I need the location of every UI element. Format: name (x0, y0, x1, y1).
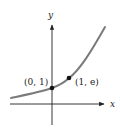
point-0-1-label: (0, 1) (24, 77, 48, 87)
y-axis-label: y (47, 10, 54, 20)
exponential-curve (11, 27, 105, 98)
point-1-e (67, 76, 72, 81)
exponential-graph: x y (0, 1) (1, e) (0, 0, 120, 129)
x-axis-label: x (110, 99, 115, 109)
point-0-1 (50, 86, 55, 91)
point-1-e-label: (1, e) (75, 77, 99, 87)
